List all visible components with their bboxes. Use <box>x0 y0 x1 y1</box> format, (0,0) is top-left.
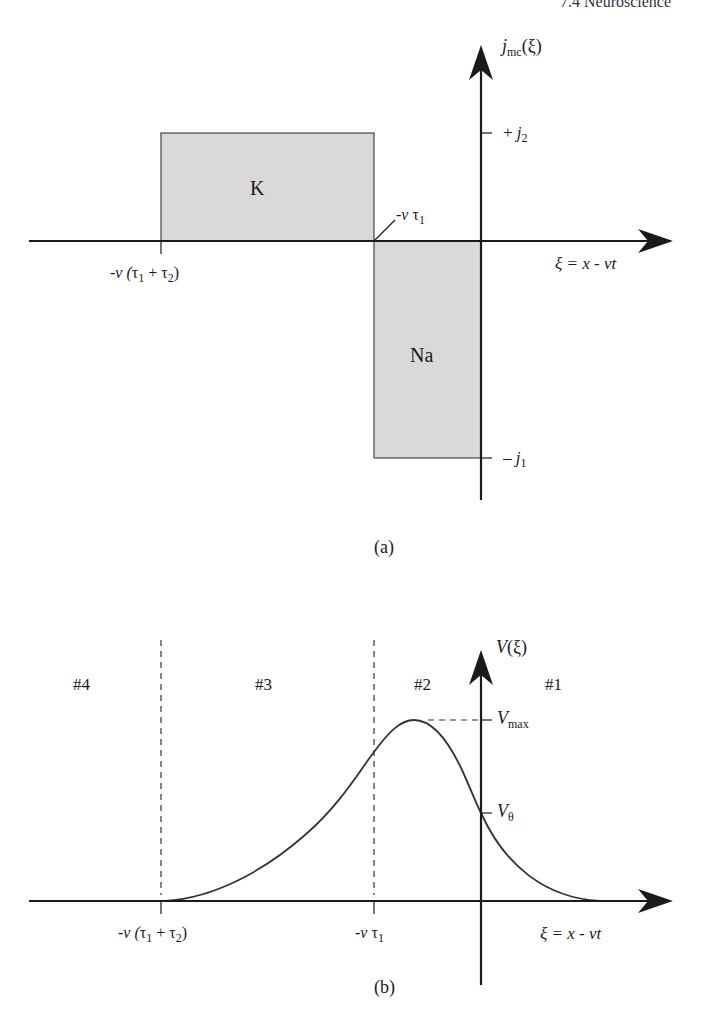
tick-prefix: -v <box>396 206 412 223</box>
y-label-arg: (ξ) <box>507 637 527 657</box>
caption-b: (b) <box>374 978 395 996</box>
y-axis-label-a: jmc(ξ) <box>502 37 542 58</box>
region-label-2: #2 <box>414 676 431 693</box>
y-label-main: V <box>496 637 507 657</box>
potassium-current-box <box>161 133 374 241</box>
tick-label-vtheta: Vθ <box>497 802 514 823</box>
tick-sign: + <box>503 123 513 142</box>
tick-label-v-tau1-a: -v τ1 <box>396 207 425 226</box>
tick-label-plus-j2: + j2 <box>503 124 528 144</box>
caption-a: (a) <box>374 538 394 556</box>
tick-prefix: -v <box>355 924 371 941</box>
tick-var: V <box>497 708 508 728</box>
tick-var: V <box>497 801 508 821</box>
leader-line <box>374 220 395 241</box>
region-label-na: Na <box>410 345 433 365</box>
diagram-canvas <box>0 0 704 1012</box>
tick-label-vmax: Vmax <box>497 709 529 730</box>
voltage-curve <box>165 720 600 901</box>
tick-sub: 1 <box>378 931 384 945</box>
region-label-4: #4 <box>73 676 90 693</box>
y-label-sub: mc <box>507 45 522 59</box>
tick-sub: 2 <box>522 131 528 145</box>
tick-sub: θ <box>508 810 514 824</box>
tick-sub: 1 <box>419 213 425 227</box>
y-label-arg: (ξ) <box>522 36 542 56</box>
x-axis-label-b: ξ = x - vt <box>540 925 601 942</box>
region-label-k: K <box>250 178 264 198</box>
tick-label-v-tau-sum-a: -v (τ1 + τ2) <box>110 265 179 284</box>
region-label-1: #1 <box>545 676 562 693</box>
region-label-3: #3 <box>255 676 272 693</box>
tick-sub: 1 <box>520 456 526 470</box>
tick-sub: max <box>508 717 529 731</box>
plus-sign: + <box>152 924 169 941</box>
tick-label-minus-j1: – j1 <box>503 449 526 469</box>
tick-suffix: ) <box>182 924 187 941</box>
x-axis-label-a: ξ = x - vt <box>555 255 616 272</box>
y-axis-label-b: V(ξ) <box>496 638 527 656</box>
tick-prefix: -v ( <box>110 264 132 281</box>
tick-suffix: ) <box>174 264 179 281</box>
tick-label-v-tau-sum-b: -v (τ1 + τ2) <box>118 925 187 944</box>
tick-prefix: -v ( <box>118 924 140 941</box>
tick-sign: – <box>503 448 512 467</box>
plus-sign: + <box>144 264 161 281</box>
tick-label-v-tau1-b: -v τ1 <box>355 925 384 944</box>
